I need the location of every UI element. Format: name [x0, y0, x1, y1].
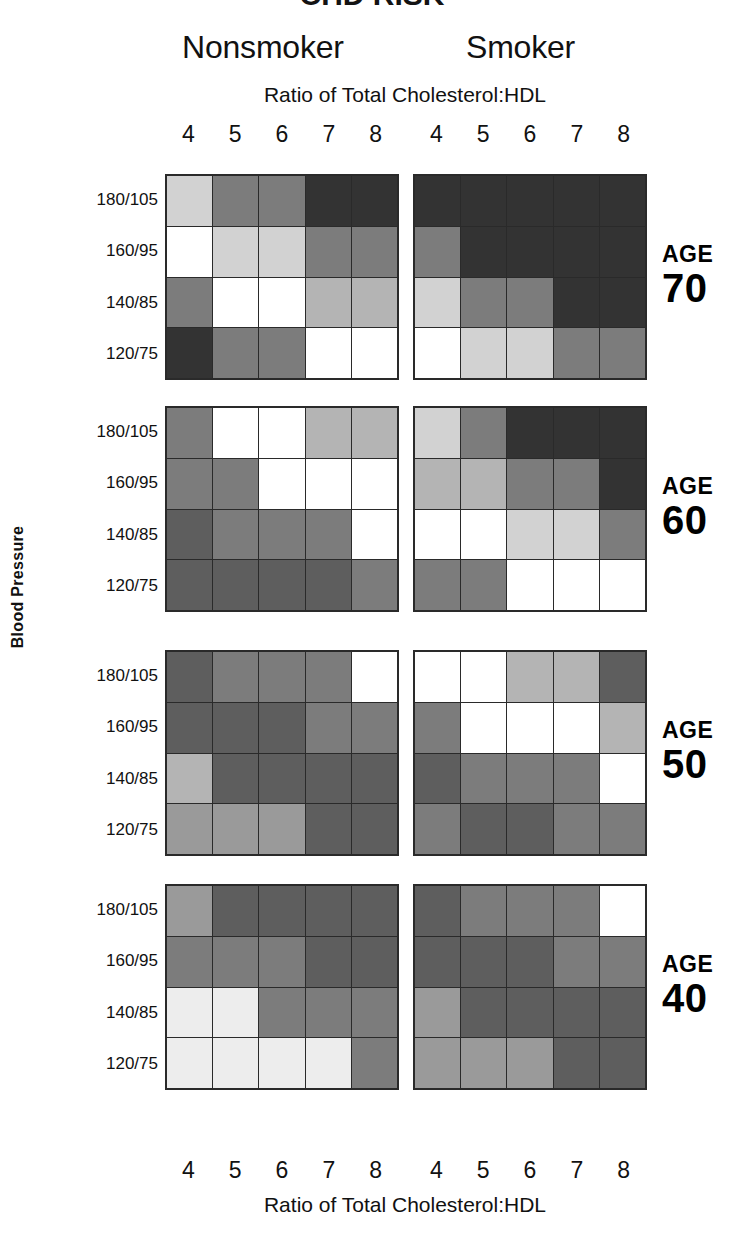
y-axis-tick-labels: 180/105160/95140/85120/75 — [58, 174, 158, 380]
heatmap-cell — [352, 804, 397, 854]
heatmap-cell — [352, 328, 397, 378]
age-tag-word: AGE — [662, 241, 744, 267]
heatmap-cell — [167, 886, 212, 936]
heatmap-cell — [554, 278, 599, 328]
heatmap-cell — [213, 1038, 258, 1088]
heatmap-cell — [554, 510, 599, 560]
heatmap-cell — [415, 459, 460, 509]
heatmap-cell — [167, 176, 212, 226]
heatmap-cell — [600, 886, 645, 936]
age-block-70: 180/105160/95140/85120/75AGE70 — [0, 174, 744, 380]
heatmap-cell — [213, 652, 258, 702]
heatmap-cell — [167, 459, 212, 509]
heatmap-cell — [167, 510, 212, 560]
heatmap-cell — [415, 176, 460, 226]
x-axis-tick-row-top: 4567845678 — [165, 120, 645, 150]
heatmap-cell — [213, 328, 258, 378]
heatmap-cell — [507, 510, 552, 560]
age-tag-40: AGE40 — [662, 951, 744, 1019]
heatmap-cell — [415, 652, 460, 702]
heatmap-cell — [259, 703, 304, 753]
heatmap-cell — [213, 560, 258, 610]
heatmap-cell — [259, 886, 304, 936]
heatmap-cell — [415, 328, 460, 378]
heatmap-cell — [554, 1038, 599, 1088]
heatmap-cell — [554, 988, 599, 1038]
y-axis-tick-labels: 180/105160/95140/85120/75 — [58, 884, 158, 1090]
heatmap-cell — [554, 560, 599, 610]
heatmap-cell — [213, 176, 258, 226]
heatmap-grid-age-70-nonsmoker — [165, 174, 399, 380]
age-tag-60: AGE60 — [662, 473, 744, 541]
heatmap-cell — [213, 459, 258, 509]
heatmap-cell — [461, 652, 506, 702]
heatmap-cell — [507, 754, 552, 804]
heatmap-cell — [213, 937, 258, 987]
heatmap-cell — [600, 278, 645, 328]
heatmap-cell — [554, 176, 599, 226]
heatmap-cell — [352, 510, 397, 560]
heatmap-cell — [306, 652, 351, 702]
y-tick-label: 140/85 — [58, 292, 158, 313]
heatmap-cell — [461, 1038, 506, 1088]
panel-title-nonsmoker: Nonsmoker — [182, 26, 344, 68]
cropped-figure-title-text: CHD RISK — [299, 0, 444, 8]
heatmap-cell — [415, 988, 460, 1038]
heatmap-cell — [507, 703, 552, 753]
heatmap-cell — [213, 988, 258, 1038]
x-tick-label: 8 — [352, 120, 399, 148]
x-tick-label: 6 — [259, 120, 306, 148]
panel-title-smoker: Smoker — [466, 26, 575, 68]
x-tick-label: 8 — [600, 120, 647, 148]
age-block-60: 180/105160/95140/85120/75AGE60 — [0, 406, 744, 612]
y-tick-label: 120/75 — [58, 819, 158, 840]
y-tick-label: 180/105 — [58, 899, 158, 920]
heatmap-cell — [415, 510, 460, 560]
heatmap-cell — [461, 560, 506, 610]
heatmap-cell — [259, 754, 304, 804]
x-tick-label: 4 — [165, 120, 212, 148]
heatmap-cell — [306, 937, 351, 987]
heatmap-cell — [461, 459, 506, 509]
heatmap-cell — [352, 652, 397, 702]
heatmap-grid-age-60-smoker — [413, 406, 647, 612]
x-tick-label: 4 — [165, 1156, 212, 1184]
heatmap-cell — [415, 937, 460, 987]
heatmap-cell — [507, 227, 552, 277]
age-tag-value: 40 — [662, 977, 744, 1019]
x-tick-group-smoker: 45678 — [413, 120, 647, 148]
heatmap-cell — [507, 804, 552, 854]
heatmap-cell — [554, 754, 599, 804]
heatmap-cell — [213, 227, 258, 277]
heatmap-cell — [306, 988, 351, 1038]
x-tick-group-smoker: 45678 — [413, 1156, 647, 1184]
y-tick-label: 140/85 — [58, 768, 158, 789]
x-tick-label: 5 — [460, 1156, 507, 1184]
heatmap-cell — [461, 988, 506, 1038]
heatmap-cell — [415, 1038, 460, 1088]
heatmap-cell — [415, 886, 460, 936]
age-tag-50: AGE50 — [662, 717, 744, 785]
heatmap-grid-age-50-nonsmoker — [165, 650, 399, 856]
heatmap-cell — [461, 408, 506, 458]
heatmap-cell — [213, 510, 258, 560]
x-tick-group-nonsmoker: 45678 — [165, 120, 399, 148]
heatmap-cell — [306, 510, 351, 560]
heatmap-cell — [167, 328, 212, 378]
age-block-40: 180/105160/95140/85120/75AGE40 — [0, 884, 744, 1090]
heatmap-cell — [507, 408, 552, 458]
heatmap-cell — [352, 937, 397, 987]
x-tick-label: 4 — [413, 120, 460, 148]
heatmap-cell — [600, 227, 645, 277]
heatmap-cell — [352, 176, 397, 226]
heatmap-cell — [600, 510, 645, 560]
x-axis-tick-row-bottom: 4567845678 — [165, 1156, 645, 1186]
heatmap-cell — [259, 408, 304, 458]
heatmap-cell — [306, 278, 351, 328]
heatmap-cell — [167, 652, 212, 702]
heatmap-cell — [167, 1038, 212, 1088]
heatmap-cell — [415, 804, 460, 854]
y-tick-label: 160/95 — [58, 472, 158, 493]
heatmap-cell — [167, 560, 212, 610]
y-tick-label: 140/85 — [58, 524, 158, 545]
